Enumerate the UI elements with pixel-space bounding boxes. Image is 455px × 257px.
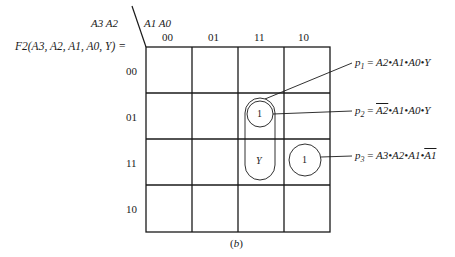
term-p3: p3 = A3•A2•A1•A1 (355, 149, 436, 164)
row-header-11: 11 (126, 157, 137, 169)
column-header-11: 11 (254, 31, 265, 43)
row-header-10: 10 (126, 203, 137, 215)
cell-11-11: Y (256, 155, 262, 166)
karnaugh-map-graphics (0, 0, 455, 257)
column-header-01: 01 (208, 31, 219, 43)
column-header-00: 00 (162, 31, 173, 43)
row-header-01: 01 (126, 111, 137, 123)
kmap-grid (146, 47, 330, 232)
leader-p3 (321, 156, 352, 157)
term-p2: p2 = A2•A1•A0•Y (355, 104, 430, 119)
row-header-00: 00 (126, 65, 137, 77)
cell-01-11: 1 (257, 108, 262, 119)
figure-caption: (b) (230, 237, 243, 249)
function-label: F2(A3, A2, A1, A0, Y) = (15, 40, 126, 52)
leader-p2 (273, 111, 352, 114)
cell-11-10: 1 (302, 154, 307, 165)
row-variables-label: A3 A2 (91, 17, 118, 29)
column-header-10: 10 (298, 31, 309, 43)
column-variables-label: A1 A0 (144, 17, 171, 29)
term-p1: p1 = A2•A1•A0•Y (355, 56, 430, 71)
